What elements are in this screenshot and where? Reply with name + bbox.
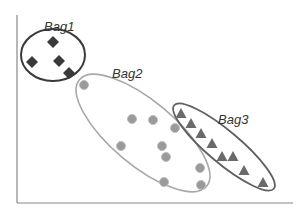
circle-marker	[162, 153, 171, 162]
triangle-marker	[258, 177, 269, 187]
circle-marker	[158, 142, 167, 151]
triangle-marker	[176, 108, 187, 118]
triangle-marker	[228, 151, 239, 161]
bag3-label: Bag3	[218, 112, 249, 127]
circle-marker	[128, 115, 137, 124]
circle-marker	[197, 181, 206, 190]
diamond-marker	[47, 36, 59, 48]
circle-marker	[160, 178, 169, 187]
circle-marker	[196, 164, 205, 173]
axes	[17, 15, 293, 203]
circle-marker	[171, 124, 180, 133]
triangle-marker	[196, 128, 207, 138]
circle-marker	[80, 81, 89, 90]
bag1-label: Bag1	[44, 19, 74, 34]
bags-diagram: Bag1Bag2Bag3	[0, 0, 308, 211]
diamond-marker	[63, 67, 75, 79]
circle-marker	[117, 142, 126, 151]
circle-marker	[149, 116, 158, 125]
triangle-marker	[217, 151, 228, 161]
diamond-marker	[26, 56, 38, 68]
triangle-marker	[207, 138, 218, 148]
bag2-label: Bag2	[112, 66, 143, 81]
diamond-marker	[53, 55, 65, 67]
triangle-marker	[239, 165, 250, 175]
triangle-marker	[186, 118, 197, 128]
